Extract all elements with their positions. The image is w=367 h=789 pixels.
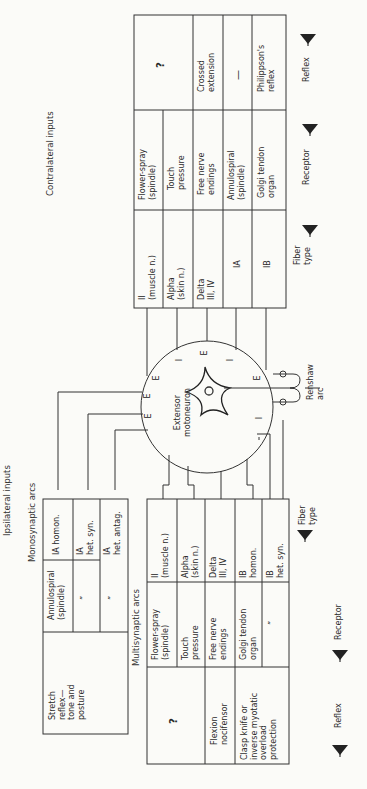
- contra-fiber-1: II (muscle n.): [138, 255, 157, 300]
- multi-reflex-flexion: Flexion nocifensor: [210, 703, 229, 745]
- multisynaptic-title: Multisynaptic arcs: [131, 589, 141, 666]
- motoneuron-label: Extensormotoneuron: [173, 388, 192, 437]
- multi-receptor-1: Flower-spray (spindle): [151, 609, 170, 660]
- mono-receptor-2: ”: [80, 596, 90, 600]
- contra-reflex-none: —: [232, 70, 243, 80]
- contra-fiber-3: Delta III, IV: [197, 279, 216, 300]
- ipsi-arrow-receptor-label: Receptor: [334, 604, 344, 640]
- renshaw-label: Renshawarc: [306, 364, 325, 400]
- multi-fiber-2: Alpha (skin n.): [181, 546, 200, 579]
- multi-reflex-unknown: ?: [168, 718, 179, 724]
- contra-reflex-unknown: ?: [155, 62, 166, 68]
- multi-receptor-4: Golgi tendon organ: [239, 609, 258, 660]
- svg-text:E: E: [200, 350, 209, 355]
- contra-fiber-4: IA: [233, 260, 243, 268]
- svg-text:I: I: [175, 359, 184, 361]
- multi-fiber-5: IB het. syn.: [266, 543, 285, 578]
- multi-receptor-5: ”: [268, 621, 278, 625]
- contra-arrow-receptor-label: Receptor: [302, 149, 312, 185]
- multi-fiber-1: II (muscle n.): [151, 533, 170, 578]
- mono-reflex: Stretch reflex— tone and posture: [48, 684, 86, 720]
- svg-text:I: I: [255, 417, 264, 419]
- svg-text:E: E: [152, 375, 161, 380]
- contra-reflex-philippson: Philippson's reflex: [257, 45, 276, 92]
- mono-receptor-1: Annulospiral (spindle): [47, 570, 66, 620]
- contra-reflex-crossed: Crossed extension: [197, 53, 216, 92]
- ipsilateral-title: Ipsilateral inputs: [2, 465, 12, 536]
- mono-fiber-3: IA het. antag.: [103, 511, 122, 555]
- contralateral-title: Contralateral inputs: [45, 111, 55, 196]
- svg-text:E: E: [144, 413, 153, 418]
- contra-receptor-5: Golgi tendon organ: [257, 147, 276, 198]
- svg-text:I: I: [226, 359, 235, 361]
- multi-receptor-3: Free nerve endings: [209, 618, 228, 660]
- contra-fiber-2: Alpha (skin n.): [167, 268, 186, 301]
- motoneuron-circle: [141, 341, 273, 473]
- contra-receptor-2: Touch pressure: [167, 155, 186, 190]
- multi-fiber-4: IB homon.: [239, 548, 258, 578]
- svg-text:E: E: [143, 393, 152, 398]
- mono-fiber-2: IA het. syn.: [76, 520, 95, 555]
- mono-receptor-3: ”: [108, 596, 118, 600]
- contra-receptor-3: Free nerve endings: [197, 153, 216, 195]
- multi-reflex-clasp-knife: Clasp knife or inverse myotatic overload…: [240, 693, 278, 760]
- contra-arrow-reflex-label: Reflex: [302, 57, 312, 82]
- multi-receptor-2: Touch pressure: [181, 625, 200, 660]
- svg-text:E: E: [253, 375, 262, 380]
- mono-fiber-1: IA homon.: [52, 514, 62, 555]
- monosynaptic-title: Monosynaptic arcs: [27, 483, 37, 562]
- ipsi-arrow-fiber-label: Fiber type: [298, 505, 317, 525]
- contra-receptor-4: Annulospiral (spindle): [227, 150, 246, 200]
- contra-arrow-fiber-label: Fiber type: [293, 245, 312, 265]
- ipsi-arrow-reflex-label: Reflex: [334, 703, 344, 728]
- multi-fiber-3: Delta III, IV: [209, 557, 228, 578]
- contra-fiber-5: IB: [263, 260, 273, 268]
- contra-receptor-1: Flower-spray (spindle): [138, 149, 157, 200]
